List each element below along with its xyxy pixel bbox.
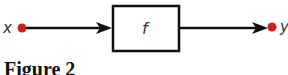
input-dot xyxy=(18,24,27,33)
output-label: y xyxy=(279,18,288,36)
output-dot xyxy=(268,23,277,32)
input-label: x xyxy=(2,19,12,37)
figure-caption: Figure 2 xyxy=(4,59,75,75)
